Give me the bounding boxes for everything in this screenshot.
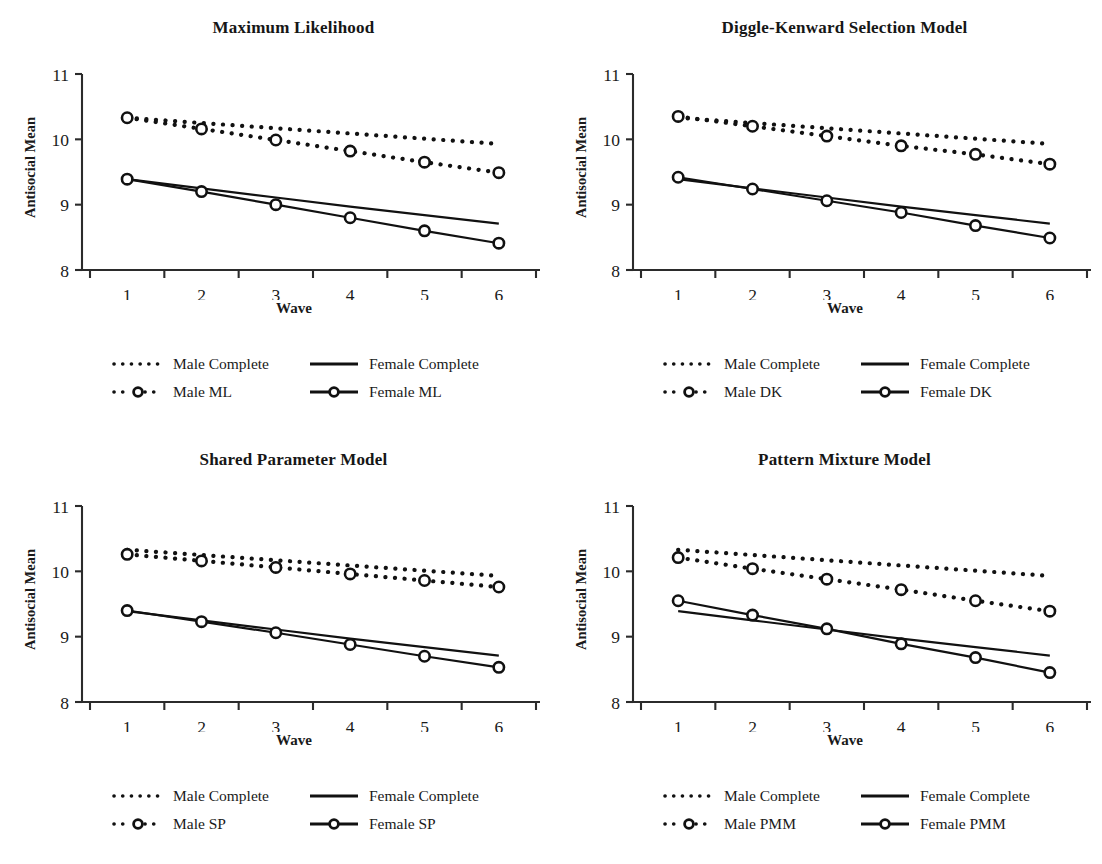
legend-label: Male PMM <box>724 816 796 832</box>
data-point-marker <box>970 220 980 230</box>
legend-item[interactable]: Male Complete <box>663 356 859 372</box>
legend-key <box>663 357 715 371</box>
panel-title: Maximum Likelihood <box>0 18 551 38</box>
legend-label: Female DK <box>920 384 992 400</box>
legend-item[interactable]: Male PMM <box>663 816 859 832</box>
legend-row: Male MLFemale ML <box>112 378 479 406</box>
legend: Male CompleteFemale CompleteMale SPFemal… <box>112 782 479 838</box>
x-tick-label: 5 <box>971 285 980 300</box>
legend-item[interactable]: Female SP <box>308 816 436 832</box>
legend-row: Male CompleteFemale Complete <box>112 782 479 810</box>
series-line-female-complete <box>678 611 1050 655</box>
data-point-marker <box>896 207 906 217</box>
plot-area: 891011123456 <box>595 484 1095 732</box>
x-tick-label: 2 <box>197 285 206 300</box>
data-point-marker <box>271 135 281 145</box>
data-point-marker <box>896 639 906 649</box>
data-point-marker <box>673 552 683 562</box>
legend-item[interactable]: Male SP <box>112 816 308 832</box>
data-point-marker <box>196 186 206 196</box>
legend-item[interactable]: Female PMM <box>859 816 1006 832</box>
x-tick-label: 1 <box>123 285 132 300</box>
legend-key <box>112 357 164 371</box>
legend-label: Male SP <box>173 816 226 832</box>
legend-row: Male CompleteFemale Complete <box>663 350 1030 378</box>
x-tick-label: 4 <box>346 717 355 732</box>
y-tick-label: 10 <box>603 562 621 582</box>
dotted-line-key <box>663 789 715 803</box>
solid-line-key <box>308 357 360 371</box>
panel-maximum-likelihood: Maximum Likelihood Antisocial Mean 89101… <box>0 0 551 432</box>
legend-item[interactable]: Male Complete <box>112 788 308 804</box>
plot-svg: 891011123456 <box>595 52 1095 300</box>
legend-key <box>663 789 715 803</box>
data-point-marker <box>822 574 832 584</box>
y-axis-label: Antisocial Mean <box>22 60 40 275</box>
data-point-marker <box>822 131 832 141</box>
legend-item[interactable]: Female ML <box>308 384 442 400</box>
data-point-marker <box>196 556 206 566</box>
legend-label: Male DK <box>724 384 782 400</box>
dotted-line-key <box>112 357 164 371</box>
y-tick-label: 8 <box>60 693 69 713</box>
y-tick-label: 11 <box>52 65 69 85</box>
panel-pattern-mixture-model: Pattern Mixture Model Antisocial Mean 89… <box>551 432 1102 864</box>
data-point-marker <box>673 596 683 606</box>
data-point-marker <box>122 549 132 559</box>
legend-item[interactable]: Male DK <box>663 384 859 400</box>
x-tick-label: 3 <box>271 285 280 300</box>
solid-circle-key <box>859 817 911 831</box>
dotted-circle-key <box>663 385 715 399</box>
series-line-male-complete <box>678 118 1050 144</box>
x-tick-label: 6 <box>494 285 503 300</box>
x-axis-label: Wave <box>44 300 544 317</box>
data-point-marker <box>196 124 206 134</box>
legend-item[interactable]: Female Complete <box>859 356 1030 372</box>
data-point-marker <box>970 149 980 159</box>
x-tick-label: 2 <box>197 717 206 732</box>
x-tick-label: 6 <box>1045 285 1054 300</box>
legend-label: Female Complete <box>369 356 479 372</box>
legend-key <box>859 385 911 399</box>
legend-item[interactable]: Female DK <box>859 384 992 400</box>
figure-four-panel-antisocial-means: Maximum Likelihood Antisocial Mean 89101… <box>0 0 1102 864</box>
data-point-marker <box>419 157 429 167</box>
x-tick-label: 3 <box>822 285 831 300</box>
legend-key <box>859 357 911 371</box>
data-point-marker <box>345 639 355 649</box>
series-line-female-complete <box>127 179 499 223</box>
legend-item[interactable]: Female Complete <box>308 356 479 372</box>
y-tick-label: 10 <box>52 130 70 150</box>
data-point-marker <box>822 196 832 206</box>
x-tick-label: 5 <box>420 717 429 732</box>
x-tick-label: 4 <box>346 285 355 300</box>
data-point-marker <box>271 562 281 572</box>
legend-label: Male ML <box>173 384 232 400</box>
legend-key <box>308 385 360 399</box>
x-tick-label: 1 <box>123 717 132 732</box>
legend-label: Female Complete <box>920 356 1030 372</box>
legend-item[interactable]: Male Complete <box>663 788 859 804</box>
legend-item[interactable]: Female Complete <box>308 788 479 804</box>
y-tick-label: 10 <box>52 562 70 582</box>
data-point-marker <box>970 596 980 606</box>
legend-item[interactable]: Male Complete <box>112 356 308 372</box>
data-point-marker <box>673 172 683 182</box>
legend-item[interactable]: Female Complete <box>859 788 1030 804</box>
x-tick-label: 2 <box>748 285 757 300</box>
legend-label: Male Complete <box>173 788 269 804</box>
legend-key <box>859 817 911 831</box>
series-line-male-complete <box>678 550 1050 576</box>
legend-label: Female Complete <box>920 788 1030 804</box>
data-point-marker <box>419 226 429 236</box>
x-tick-label: 1 <box>674 285 683 300</box>
y-tick-label: 9 <box>611 195 620 215</box>
data-point-marker <box>494 582 504 592</box>
series-line-female-pmm <box>678 601 1050 673</box>
legend-item[interactable]: Male ML <box>112 384 308 400</box>
y-tick-label: 11 <box>603 497 620 517</box>
series-line-male-ml <box>127 118 499 173</box>
y-axis-label: Antisocial Mean <box>22 492 40 707</box>
solid-circle-key <box>859 385 911 399</box>
x-tick-label: 4 <box>897 717 906 732</box>
